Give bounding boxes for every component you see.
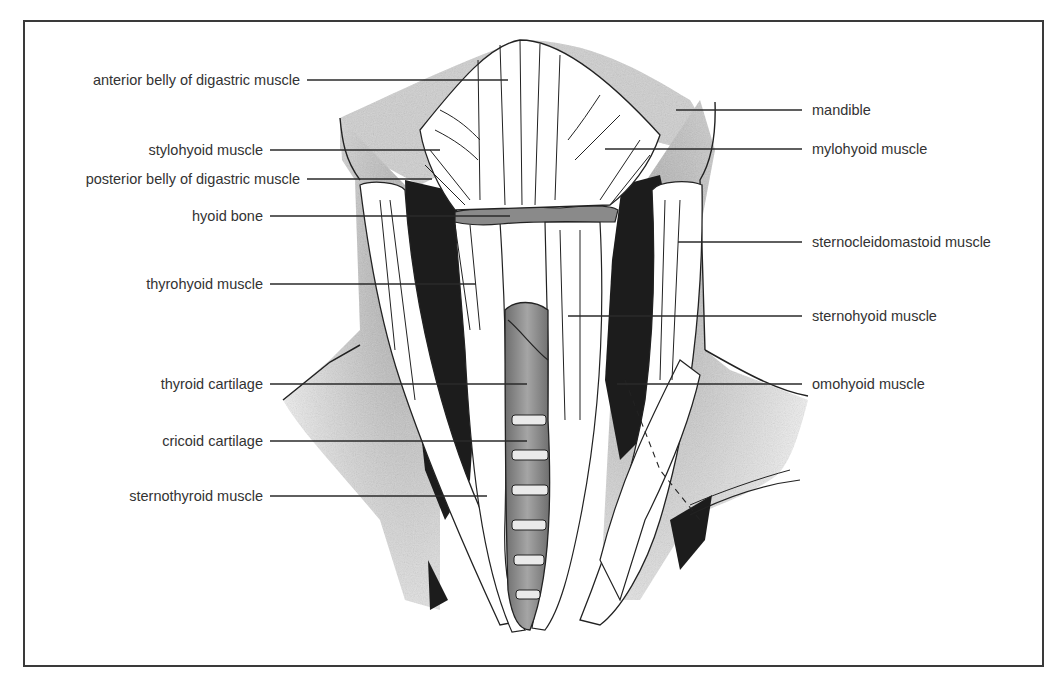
label-mylohyoid: mylohyoid muscle bbox=[812, 141, 927, 157]
label-cricoid-cartilage: cricoid cartilage bbox=[162, 433, 263, 449]
label-stylohyoid: stylohyoid muscle bbox=[149, 142, 263, 158]
neck-anatomy-illustration bbox=[0, 0, 1060, 687]
larynx-trachea bbox=[505, 303, 550, 631]
label-hyoid-bone: hyoid bone bbox=[192, 208, 263, 224]
label-thyroid-cartilage: thyroid cartilage bbox=[161, 376, 263, 392]
label-thyrohyoid: thyrohyoid muscle bbox=[146, 276, 263, 292]
label-omohyoid: omohyoid muscle bbox=[812, 376, 925, 392]
label-anterior-belly-digastric: anterior belly of digastric muscle bbox=[93, 72, 300, 88]
label-mandible: mandible bbox=[812, 102, 871, 118]
label-sternohyoid: sternohyoid muscle bbox=[812, 308, 937, 324]
label-sternothyroid: sternothyroid muscle bbox=[129, 488, 263, 504]
label-posterior-belly-digastric: posterior belly of digastric muscle bbox=[86, 171, 300, 187]
label-sternocleidomastoid: sternocleidomastoid muscle bbox=[812, 234, 991, 250]
